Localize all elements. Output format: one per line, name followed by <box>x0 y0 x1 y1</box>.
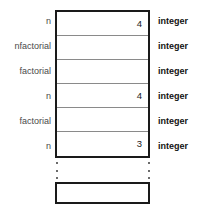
type-label: integer <box>158 67 188 76</box>
stack-frame-diagram: n nfactorial factorial n factorial n 4 4… <box>0 0 206 216</box>
stack-row <box>57 36 148 60</box>
vertical-ellipsis-icon <box>148 162 150 179</box>
stack-row: 4 <box>57 84 148 108</box>
type-label: integer <box>158 117 188 126</box>
variable-name-label: factorial <box>0 67 51 76</box>
variable-name-label: nfactorial <box>0 42 51 51</box>
type-label: integer <box>158 92 188 101</box>
ellipsis-dot <box>56 177 58 179</box>
stack-box: 4 4 3 <box>55 10 150 158</box>
variable-name-label: n <box>0 17 51 26</box>
variable-name-label: n <box>0 92 51 101</box>
stack-row <box>57 60 148 84</box>
ellipsis-dot <box>56 162 58 164</box>
cell-value: 4 <box>137 19 142 29</box>
ellipsis-dot <box>148 170 150 172</box>
type-label-column: integer integer integer integer integer … <box>158 10 206 160</box>
stack-row <box>57 108 148 132</box>
cell-value: 4 <box>137 91 142 101</box>
cell-value: 3 <box>137 139 142 149</box>
type-label: integer <box>158 142 188 151</box>
ellipsis-dot <box>148 162 150 164</box>
ellipsis-dot <box>148 177 150 179</box>
variable-name-label: n <box>0 142 51 151</box>
stack-row: 3 <box>57 132 148 156</box>
type-label: integer <box>158 17 188 26</box>
variable-name-column: n nfactorial factorial n factorial n <box>0 10 51 160</box>
variable-name-label: factorial <box>0 117 51 126</box>
vertical-ellipsis-icon <box>56 162 58 179</box>
bottom-empty-frame <box>55 182 150 204</box>
stack-row: 4 <box>57 12 148 36</box>
type-label: integer <box>158 42 188 51</box>
ellipsis-dot <box>56 170 58 172</box>
